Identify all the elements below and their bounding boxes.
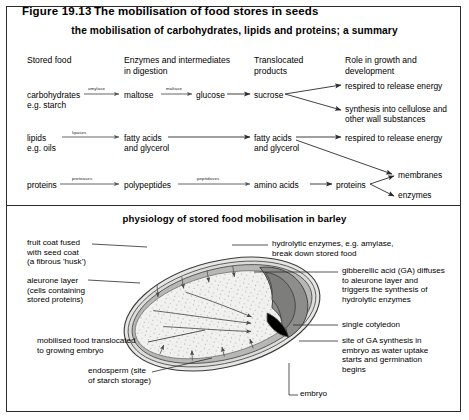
label-ga-synthesis: site of GA synthesis in embryo as water … xyxy=(342,336,428,374)
label-single-cotyledon: single cotyledon xyxy=(342,320,400,330)
label-mobilised-food: mobilised food translocated to growing e… xyxy=(37,336,136,355)
label-gibberellic-acid: gibberellic acid (GA) diffuses to aleuro… xyxy=(342,266,445,304)
label-aleurone-layer: aleurone layer (cells containing stored … xyxy=(27,276,85,305)
label-embryo: embryo xyxy=(300,389,327,399)
figure-container: Figure 19.13 The mobilisation of food st… xyxy=(0,0,469,420)
label-fruit-coat: fruit coat fused with seed coat (a fibro… xyxy=(27,238,86,267)
label-hydrolytic-enzymes: hydrolytic enzymes, e.g. amylase, break … xyxy=(272,239,393,258)
label-endosperm: endosperm (site of starch storage) xyxy=(88,366,151,385)
